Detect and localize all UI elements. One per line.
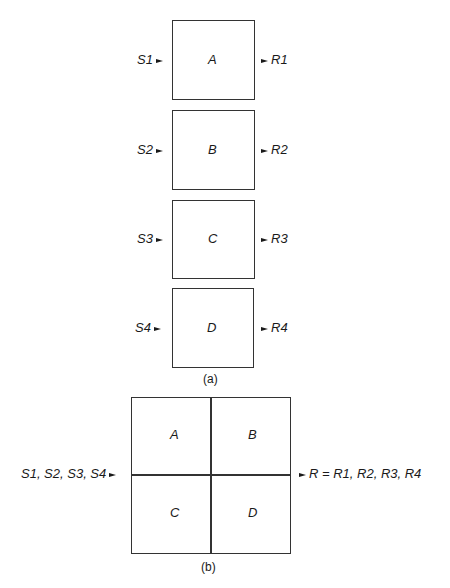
grid-divider-horizontal — [131, 474, 291, 476]
arrow-right-icon — [261, 149, 268, 153]
input-label-s2: S2 — [137, 143, 166, 157]
caption-a: (a) — [203, 372, 218, 386]
output-label-r1: R1 — [258, 53, 288, 67]
arrow-right-icon — [156, 149, 163, 153]
grid-cell-label-b: B — [248, 428, 257, 442]
arrow-right-icon — [156, 238, 163, 242]
caption-b: (b) — [201, 560, 216, 574]
grid-cell-label-c: C — [170, 506, 179, 520]
input-label-s3: S3 — [137, 232, 166, 246]
combined-input-label: S1, S2, S3, S4 — [21, 467, 119, 481]
output-label-r3: R3 — [258, 232, 288, 246]
module-label-b: B — [208, 143, 217, 157]
grid-cell-label-a: A — [170, 428, 179, 442]
arrow-right-icon — [261, 238, 268, 242]
input-label-s1: S1 — [137, 53, 166, 67]
arrow-right-icon — [299, 473, 306, 477]
arrow-right-icon — [261, 59, 268, 63]
grid-cell-label-d: D — [248, 506, 257, 520]
input-label-s4: S4 — [135, 321, 164, 335]
arrow-right-icon — [261, 327, 268, 331]
module-label-d: D — [207, 321, 216, 335]
arrow-right-icon — [154, 327, 161, 331]
arrow-right-icon — [156, 59, 163, 63]
output-label-r4: R4 — [258, 321, 288, 335]
grid-divider-vertical — [210, 397, 212, 554]
combined-output-label: R = R1, R2, R3, R4 — [296, 467, 421, 481]
output-label-r2: R2 — [258, 143, 288, 157]
module-label-c: C — [208, 232, 217, 246]
module-label-a: A — [208, 53, 217, 67]
arrow-right-icon — [109, 473, 116, 477]
